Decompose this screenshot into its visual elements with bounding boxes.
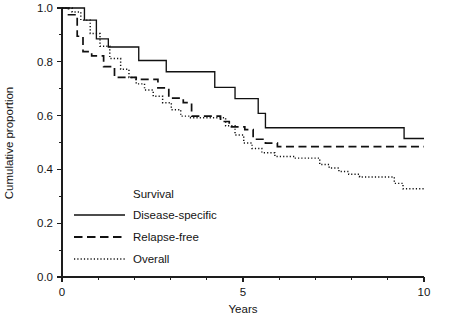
legend-label-dotted: Overall: [133, 253, 169, 265]
x-axis-title: Years: [229, 303, 258, 315]
legend-title: Survival: [133, 188, 174, 200]
chart-legend: SurvivalDisease-specificRelapse-freeOver…: [74, 188, 217, 265]
legend-label-dashed: Relapse-free: [133, 231, 199, 243]
chart-canvas: 0.00.20.40.60.81.00510 SurvivalDisease-s…: [0, 0, 449, 320]
data-curves-group: [62, 8, 424, 190]
curve-dashed: [62, 8, 424, 147]
y-tick-label: 0.8: [37, 56, 53, 68]
axis-ticks-group: [57, 8, 424, 282]
y-tick-label: 1.0: [37, 2, 53, 14]
survival-curve-figure: 0.00.20.40.60.81.00510 SurvivalDisease-s…: [0, 0, 449, 320]
y-tick-label: 0.6: [37, 110, 53, 122]
legend-label-solid: Disease-specific: [133, 209, 217, 221]
x-tick-label: 10: [418, 286, 431, 298]
y-tick-label: 0.2: [37, 217, 53, 229]
x-tick-label: 0: [59, 286, 65, 298]
curve-solid: [62, 8, 424, 138]
x-tick-label: 5: [240, 286, 246, 298]
axis-tick-labels-group: 0.00.20.40.60.81.00510: [37, 2, 430, 298]
y-tick-label: 0.4: [37, 163, 54, 175]
y-axis-title: Cumulative proportion: [3, 87, 15, 200]
y-tick-label: 0.0: [37, 271, 53, 283]
